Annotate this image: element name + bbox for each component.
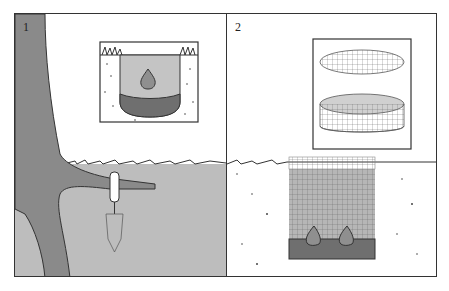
panel-1: 1 [15,14,226,276]
panel-1-number: 1 [23,20,29,35]
panel-2: 2 [226,14,436,276]
panel-2-drawing [227,14,436,276]
illustration-frame: 1 [14,13,437,277]
panel-2-number: 2 [235,20,241,35]
panel-1-drawing [15,14,226,276]
